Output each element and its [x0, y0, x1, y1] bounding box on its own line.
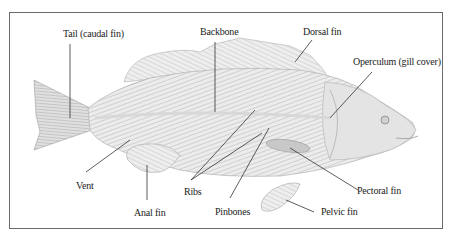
label-anal-fin: Anal fin — [134, 207, 165, 218]
label-vent: Vent — [76, 180, 94, 191]
label-pinbones: Pinbones — [215, 206, 250, 217]
label-pelvic-fin: Pelvic fin — [321, 206, 358, 217]
caudal-fin — [34, 80, 92, 150]
label-backbone: Backbone — [200, 26, 238, 37]
pelvic-fin-shape — [261, 183, 300, 211]
label-ribs: Ribs — [184, 186, 202, 197]
label-tail: Tail (caudal fin) — [63, 28, 124, 39]
label-pectoral-fin: Pectoral fin — [357, 185, 401, 196]
fish-head — [322, 82, 416, 160]
label-dorsal-fin: Dorsal fin — [303, 26, 341, 37]
label-operculum: Operculum (gill cover) — [353, 56, 441, 67]
fish-eye — [381, 116, 389, 124]
